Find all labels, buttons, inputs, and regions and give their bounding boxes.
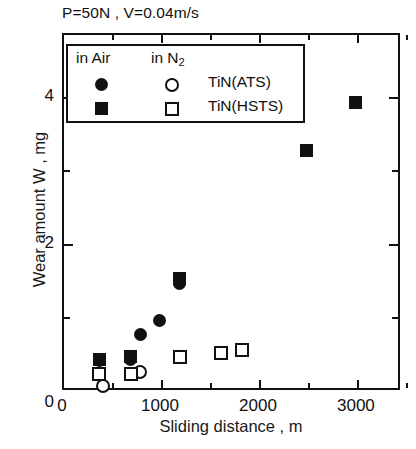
- y-minor-tick: [64, 170, 70, 172]
- x-minor-tick-top: [112, 35, 114, 40]
- y-minor-tick-right: [392, 170, 398, 172]
- legend-marker-n2-open-circle: [165, 78, 179, 92]
- data-point-open-square: [124, 367, 138, 381]
- x-minor-tick: [308, 383, 310, 388]
- x-major-tick-top: [357, 35, 359, 43]
- data-point-open-square: [173, 350, 187, 364]
- legend-label: TiN(HSTS): [208, 97, 283, 115]
- x-major-tick: [259, 380, 261, 388]
- data-point-open-square: [214, 346, 228, 360]
- x-minor-tick: [210, 383, 212, 388]
- x-tick-label: 2000: [239, 396, 277, 416]
- data-point-filled-square: [349, 96, 362, 109]
- y-axis-title: Wear amount W , mg: [30, 85, 49, 335]
- legend-marker-air-filled-circle: [95, 78, 108, 91]
- legend-header-n2-text: in N: [151, 49, 179, 66]
- x-major-tick-top: [259, 35, 261, 43]
- legend: in Air in N2 TiN(ATS)TiN(HSTS): [66, 44, 305, 123]
- x-tick-label: 3000: [337, 396, 375, 416]
- data-point-filled-circle: [153, 314, 166, 327]
- y-tick-label: 0: [14, 392, 54, 412]
- legend-header-air: in Air: [76, 49, 110, 67]
- x-major-tick: [357, 380, 359, 388]
- x-minor-tick-top: [308, 35, 310, 40]
- y-minor-tick: [64, 317, 70, 319]
- data-point-open-square: [235, 343, 249, 357]
- y-major-tick-right: [389, 244, 398, 246]
- chart-title: P=50N , V=0.04m/s: [62, 4, 402, 22]
- legend-marker-n2-open-square: [165, 102, 179, 116]
- x-minor-tick-top: [406, 35, 408, 40]
- data-point-filled-square: [124, 350, 137, 363]
- data-point-filled-square: [300, 144, 313, 157]
- x-minor-tick: [112, 383, 114, 388]
- y-major-tick: [64, 244, 73, 246]
- x-major-tick-top: [161, 35, 163, 43]
- wear-chart-figure: P=50N , V=0.04m/s 0100020003000024 Slidi…: [0, 0, 416, 449]
- data-point-open-square: [92, 367, 106, 381]
- legend-label: TiN(ATS): [208, 73, 271, 91]
- x-major-tick: [161, 380, 163, 388]
- x-axis-title: Sliding distance , m: [62, 417, 400, 436]
- legend-marker-air-filled-square: [95, 102, 108, 115]
- y-minor-tick-right: [392, 317, 398, 319]
- x-tick-label: 0: [57, 396, 66, 416]
- x-minor-tick: [406, 383, 408, 388]
- x-minor-tick-top: [210, 35, 212, 40]
- legend-header-n2: in N2: [151, 49, 185, 67]
- legend-header-n2-subscript: 2: [179, 56, 185, 68]
- data-point-filled-square: [173, 272, 186, 285]
- data-point-filled-square: [93, 353, 106, 366]
- x-tick-label: 1000: [141, 396, 179, 416]
- data-point-open-circle: [96, 379, 110, 393]
- y-major-tick-right: [389, 97, 398, 99]
